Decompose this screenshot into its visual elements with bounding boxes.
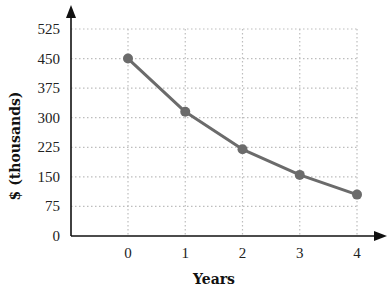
axes: [66, 5, 387, 241]
x-tick-label: 0: [124, 245, 132, 261]
y-tick-labels: 075150225300375450525: [38, 21, 61, 244]
data-point-marker: [123, 54, 133, 64]
x-axis-title: Years: [192, 271, 235, 287]
y-tick-label: 225: [38, 139, 61, 155]
x-tick-label: 4: [353, 245, 361, 261]
y-tick-label: 150: [38, 169, 61, 185]
y-tick-label: 525: [38, 21, 61, 37]
data-point-marker: [180, 107, 190, 117]
x-tick-label: 1: [182, 245, 190, 261]
y-tick-label: 75: [45, 198, 60, 214]
y-axis-arrow-icon: [66, 5, 76, 18]
y-tick-label: 450: [38, 51, 61, 67]
y-axis-title: $ (thousands): [7, 92, 23, 201]
line-chart: 075150225300375450525 01234 Years $ (tho…: [0, 0, 390, 289]
x-tick-label: 3: [296, 245, 304, 261]
x-tick-labels: 01234: [124, 245, 361, 261]
grid-lines: [71, 29, 357, 236]
x-axis-arrow-icon: [374, 231, 387, 241]
y-tick-label: 300: [38, 110, 61, 126]
data-point-marker: [238, 144, 248, 154]
data-point-marker: [352, 190, 362, 200]
y-tick-label: 0: [53, 228, 61, 244]
x-tick-label: 2: [239, 245, 247, 261]
data-point-marker: [295, 170, 305, 180]
y-tick-label: 375: [38, 80, 61, 96]
